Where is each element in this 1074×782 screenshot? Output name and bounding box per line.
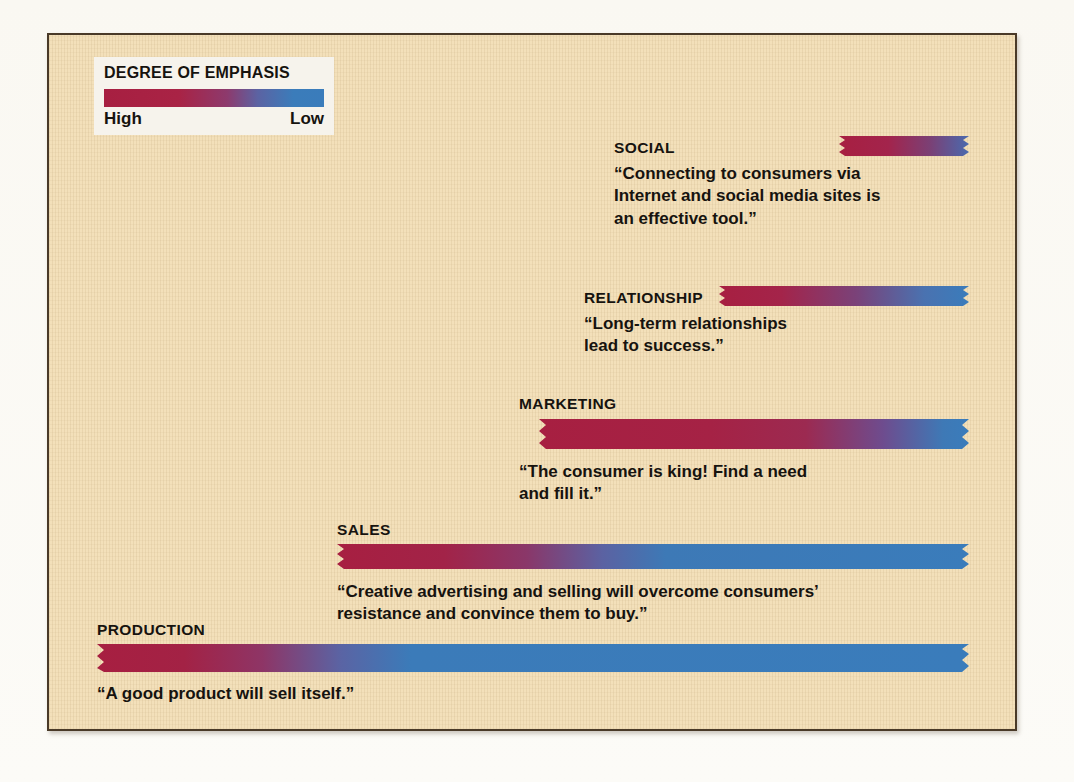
- quote-production: “A good product will sell itself.”: [97, 683, 354, 706]
- legend-low-label: Low: [290, 109, 324, 129]
- figure-panel: DEGREE OF EMPHASIS High Low SOCIAL: [47, 33, 1017, 731]
- bar-sales[interactable]: [337, 541, 969, 573]
- bar-production[interactable]: [97, 641, 969, 675]
- bar-social[interactable]: [839, 133, 969, 163]
- legend-gradient-bar: [104, 89, 324, 107]
- quote-sales: “Creative advertising and selling will o…: [337, 581, 819, 627]
- stage-label-marketing: MARKETING: [519, 395, 616, 413]
- legend-title: DEGREE OF EMPHASIS: [104, 64, 324, 82]
- stage-label-sales: SALES: [337, 521, 391, 539]
- legend: DEGREE OF EMPHASIS High Low: [94, 57, 334, 135]
- quote-relationship: “Long-term relationships lead to success…: [584, 313, 787, 359]
- bar-marketing[interactable]: [539, 416, 969, 454]
- stage-label-social: SOCIAL: [614, 139, 675, 157]
- bar-relationship[interactable]: [719, 283, 969, 313]
- stage-label-relationship: RELATIONSHIP: [584, 289, 703, 307]
- stage-label-production: PRODUCTION: [97, 621, 205, 639]
- quote-marketing: “The consumer is king! Find a need and f…: [519, 461, 807, 507]
- legend-labels: High Low: [104, 109, 324, 129]
- legend-high-label: High: [104, 109, 142, 129]
- quote-social: “Connecting to consumers via Internet an…: [614, 163, 880, 231]
